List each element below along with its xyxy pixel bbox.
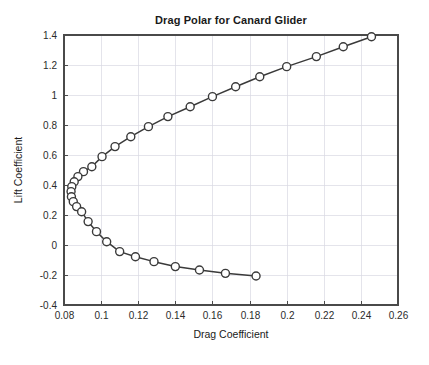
- data-point-marker: [312, 53, 320, 61]
- data-point-marker: [116, 248, 124, 256]
- data-point-marker: [339, 43, 347, 51]
- data-point-marker: [131, 253, 139, 261]
- y-tick-label: -0.4: [40, 300, 58, 311]
- axis-frame: [64, 35, 398, 305]
- data-point-marker: [88, 163, 96, 171]
- x-tick-label: 0.08: [55, 310, 75, 321]
- y-tick-label: 0.6: [43, 150, 57, 161]
- x-tick-label: 0.14: [166, 310, 186, 321]
- data-point-marker: [171, 263, 179, 271]
- x-tick-label: 0.26: [389, 310, 409, 321]
- y-tick-label: 0.4: [43, 180, 57, 191]
- x-tick-label: 0.16: [203, 310, 223, 321]
- x-tick-label: 0.24: [352, 310, 372, 321]
- x-tick-label: 0.1: [95, 310, 109, 321]
- data-point-marker: [92, 228, 100, 236]
- series-markers: [67, 33, 375, 280]
- y-tick-label: 0: [51, 240, 57, 251]
- data-point-marker: [84, 218, 92, 226]
- x-tick-label: 0.2: [281, 310, 295, 321]
- y-tick-label: 1.2: [43, 60, 57, 71]
- data-point-marker: [367, 33, 375, 41]
- data-point-marker: [195, 266, 203, 274]
- y-axis-tick-labels: -0.4-0.200.20.40.60.811.21.4: [40, 30, 58, 311]
- y-tick-label: 1.4: [43, 30, 57, 41]
- drag-polar-plot: 0.080.10.120.140.160.180.20.220.240.26 -…: [0, 0, 429, 365]
- y-axis-title: Lift Coefficient: [12, 137, 24, 203]
- chart-figure: Drag Polar for Canard Glider 0.080.10.12…: [0, 0, 429, 365]
- data-point-marker: [232, 83, 240, 91]
- data-point-marker: [150, 258, 158, 266]
- data-point-marker: [256, 73, 264, 81]
- x-axis-title: Drag Coefficient: [193, 328, 268, 340]
- x-tick-label: 0.12: [129, 310, 149, 321]
- tick-marks: [64, 36, 399, 306]
- series-polyline: [71, 37, 371, 276]
- y-tick-label: 1: [51, 90, 57, 101]
- data-point-marker: [164, 113, 172, 121]
- data-point-marker: [221, 269, 229, 277]
- data-point-marker: [283, 63, 291, 71]
- data-point-marker: [127, 133, 135, 141]
- data-point-marker: [103, 238, 111, 246]
- grid-lines: [64, 35, 398, 305]
- x-axis-tick-labels: 0.080.10.120.140.160.180.20.220.240.26: [55, 310, 409, 321]
- data-point-marker: [252, 272, 260, 280]
- data-point-marker: [208, 93, 216, 101]
- y-tick-label: 0.2: [43, 210, 57, 221]
- data-point-marker: [78, 208, 86, 216]
- data-point-marker: [144, 123, 152, 131]
- data-point-marker: [111, 143, 119, 151]
- data-point-marker: [186, 103, 194, 111]
- x-tick-label: 0.18: [241, 310, 261, 321]
- data-point-marker: [98, 153, 106, 161]
- x-tick-label: 0.22: [315, 310, 335, 321]
- y-tick-label: 0.8: [43, 120, 57, 131]
- y-tick-label: -0.2: [40, 270, 58, 281]
